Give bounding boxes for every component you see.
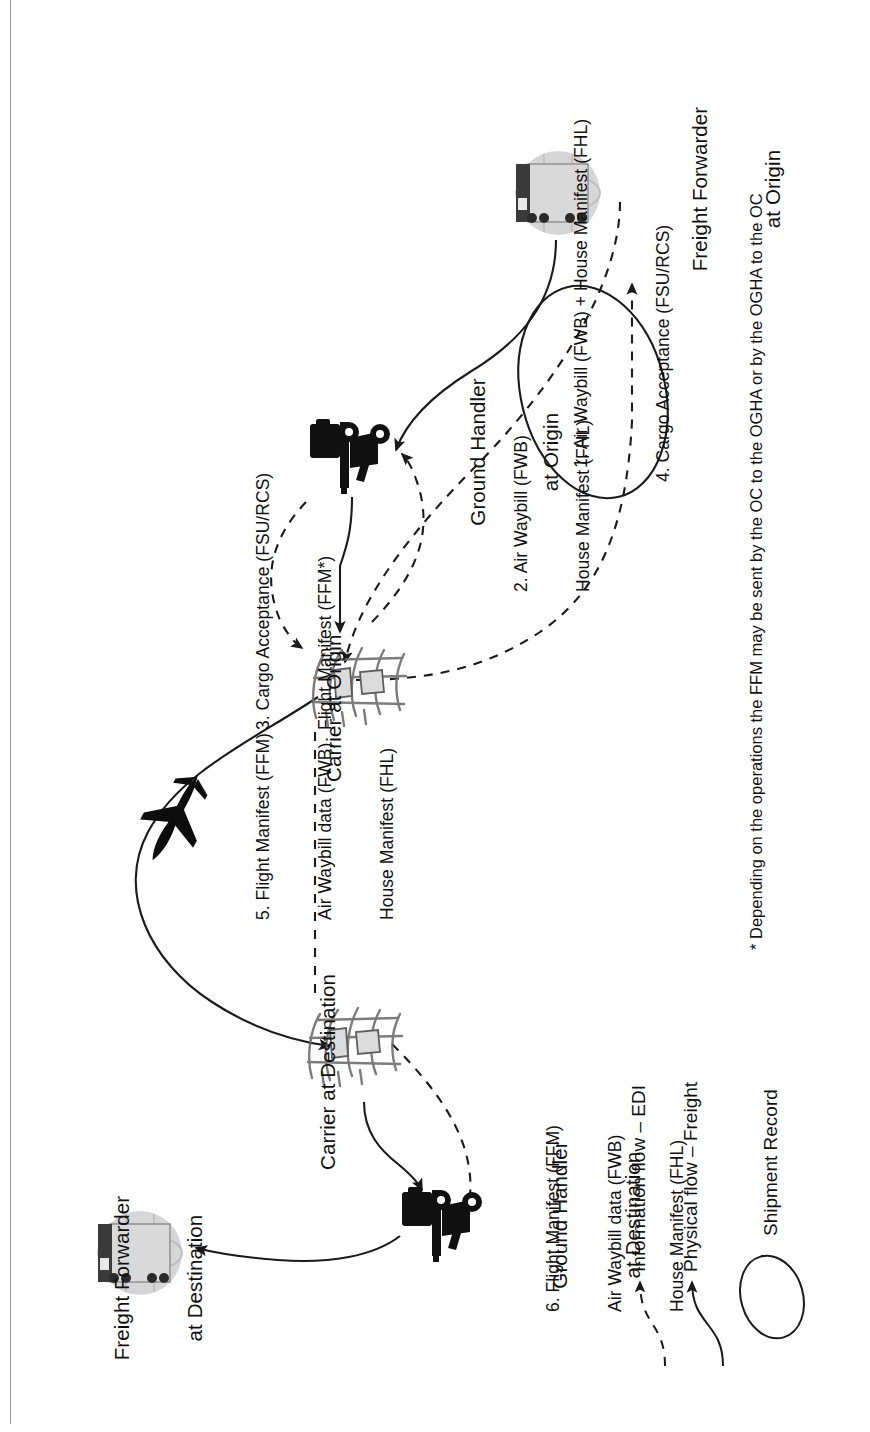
flow-label-line-1: 4. Cargo Acceptance (FSU/RCS) <box>653 142 674 482</box>
node-label-line-1: Freight Forwarder <box>110 1162 134 1394</box>
diagram-canvas: Freight Forwarder at Origin Ground Handl… <box>0 0 870 1432</box>
flow-label-4: 4. Cargo Acceptance (FSU/RCS) <box>612 142 715 482</box>
flow-label-line-2: Air Waybill data (FWB) <box>605 1012 626 1312</box>
diagram-page: Freight Forwarder at Origin Ground Handl… <box>0 0 870 1432</box>
legend-label-physical-flow: Physical flow – Freight <box>680 1082 702 1272</box>
node-label-freight-forwarder-at-destination: Freight Forwarder at Destination <box>62 1162 256 1394</box>
node-label-carrier-at-destination: Carrier at Destination <box>268 890 389 1170</box>
flow-label-line-1: 5. Flight Manifest (FFM) <box>253 620 274 920</box>
flow-label-line-1: 6. Flight Manifest (FFM) <box>543 1012 564 1312</box>
legend-label-shipment-record: Shipment Record <box>760 1089 782 1236</box>
flow-label-line-1: 2. Air Waybill (FWB) <box>511 292 532 592</box>
footnote-text: * Depending on the operations the FFM ma… <box>744 430 769 950</box>
flow-label-2: 2. Air Waybill (FWB) House Manifest (FHL… <box>470 292 635 592</box>
flow-label-5: 5. Flight Manifest (FFM) Air Waybill dat… <box>212 620 439 920</box>
forklift-icon-gh-destination <box>392 1176 490 1272</box>
flow-label-line-3: House Manifest (FHL) <box>377 620 398 920</box>
legend-shipment-record-symbol <box>731 1248 814 1346</box>
flow-label-line-2: House Manifest (FHL) <box>573 292 594 592</box>
airplane-icon-in-flight <box>130 760 222 872</box>
flow-label-line-2: Air Waybill data (FWB) <box>315 620 336 920</box>
node-label-line-1: Carrier at Destination <box>316 890 340 1170</box>
node-label-line-2: at Destination <box>183 1162 207 1394</box>
legend-label-information-flow: Information flow – EDI <box>628 1085 650 1272</box>
